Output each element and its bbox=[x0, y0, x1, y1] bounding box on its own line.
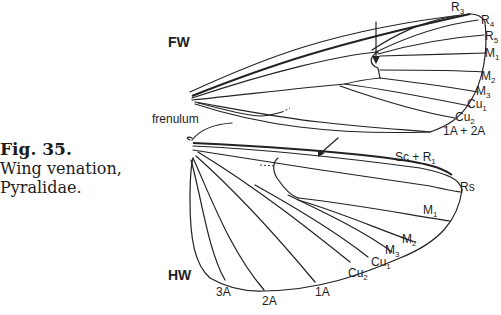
label-r3: R3 bbox=[451, 0, 465, 16]
hw-title: HW bbox=[168, 267, 192, 283]
fw-m2 bbox=[380, 70, 484, 72]
label-sc-r1: Sc + R1 bbox=[395, 150, 436, 166]
hindwing bbox=[187, 123, 462, 291]
label-fw-1a-2a: 1A + 2A bbox=[443, 124, 485, 138]
fw-r-stem bbox=[192, 52, 378, 98]
label-fw-m2: M2 bbox=[481, 69, 496, 85]
hw-arrow-shaft bbox=[322, 138, 338, 152]
label-hw-m3: M3 bbox=[385, 243, 400, 259]
label-rs: Rs bbox=[460, 180, 475, 194]
label-hw-2a: 2A bbox=[262, 294, 277, 308]
frenulum-tip bbox=[187, 137, 192, 140]
hw-margin bbox=[190, 158, 462, 291]
frenulum-label: frenulum bbox=[152, 112, 199, 126]
label-hw-1a: 1A bbox=[315, 285, 330, 299]
label-hw-m1: M1 bbox=[423, 203, 438, 219]
label-r4: R4 bbox=[481, 13, 495, 29]
fw-m3 bbox=[380, 78, 478, 92]
forewing bbox=[190, 14, 486, 133]
fw-cu2 bbox=[340, 86, 455, 118]
label-r5: R5 bbox=[485, 29, 499, 45]
wing-venation-diagram: FW frenulum R3 R4 R5 M1 M2 M3 Cu1 Cu2 1A… bbox=[0, 0, 501, 315]
label-fw-m1: M1 bbox=[485, 46, 500, 62]
fw-3a-dash bbox=[282, 108, 290, 112]
label-hw-3a: 3A bbox=[216, 285, 231, 299]
fw-cell-lower bbox=[345, 78, 380, 84]
fw-m1 bbox=[380, 53, 486, 56]
label-hw-m2: M2 bbox=[402, 232, 417, 248]
fw-1a-2a bbox=[195, 102, 430, 132]
fw-arrow-head-icon bbox=[372, 56, 380, 64]
hw-cell-end bbox=[274, 158, 298, 198]
label-hw-cu1: Cu1 bbox=[371, 255, 391, 271]
fw-title: FW bbox=[168, 34, 191, 50]
hw-cu1 bbox=[255, 185, 368, 257]
label-hw-cu2: Cu2 bbox=[348, 266, 368, 282]
hw-1a bbox=[196, 156, 315, 282]
